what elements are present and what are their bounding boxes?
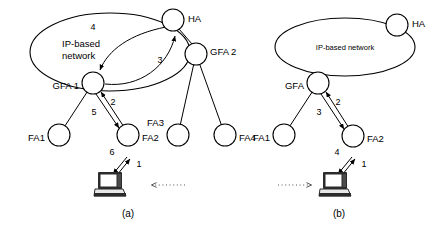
flow-arrow-5-gfa1-to-fa2 — [96, 94, 119, 128]
node-label-gfa-b: GFA — [285, 80, 305, 91]
step-number-1-a: 1 — [136, 159, 141, 169]
node-gfa1[interactable] — [82, 72, 104, 94]
flow-arrow-3-gfa-to-fa2-b — [321, 94, 344, 129]
node-fa3[interactable] — [167, 124, 189, 146]
flow-arrow-3-gfa1-to-ha — [105, 36, 175, 84]
step-number-6-a: 6 — [109, 147, 114, 157]
node-fa1-a[interactable] — [48, 124, 70, 146]
step-number-2-b: 2 — [335, 97, 340, 107]
node-label-gfa1: GFA 1 — [53, 80, 79, 91]
step-number-4-a: 4 — [90, 22, 95, 32]
node-label-fa2-a: FA2 — [142, 132, 159, 143]
panel-caption-b: (b) — [333, 208, 345, 219]
ip-network-label-b: IP-based network — [316, 43, 375, 52]
laptop-icon-a[interactable] — [94, 172, 126, 196]
node-fa2-b[interactable] — [342, 125, 364, 147]
ip-network-label-a-line1: IP-based — [62, 38, 100, 49]
diagram-canvas: IP-based network HA GFA 1 GFA 2 FA1 FA2 … — [0, 0, 448, 227]
node-label-ha-a: HA — [188, 13, 202, 24]
node-label-ha-b: HA — [412, 18, 426, 29]
step-number-3-a: 3 — [157, 55, 162, 65]
node-label-fa1-b: FA1 — [253, 132, 270, 143]
node-ha-a[interactable] — [162, 9, 184, 31]
panel-b: IP-based network HA GFA FA1 FA2 1 2 3 4 — [253, 14, 426, 219]
panel-caption-a: (a) — [122, 208, 134, 219]
node-ha-b[interactable] — [386, 14, 408, 36]
step-number-5-a: 5 — [91, 107, 96, 117]
node-label-fa2-b: FA2 — [367, 133, 384, 144]
node-fa2-a[interactable] — [117, 124, 139, 146]
link-gfa2-fa3 — [178, 54, 196, 135]
network-diagram-figure: IP-based network HA GFA 1 GFA 2 FA1 FA2 … — [0, 0, 448, 227]
node-label-fa3: FA3 — [147, 117, 164, 128]
panel-a: IP-based network HA GFA 1 GFA 2 FA1 FA2 … — [28, 9, 256, 219]
flow-arrow-4-ha-to-gfa1 — [100, 27, 166, 70]
step-number-4-b: 4 — [334, 147, 339, 157]
node-label-fa1-a: FA1 — [28, 132, 45, 143]
step-number-1-b: 1 — [361, 159, 366, 169]
ip-network-label-a-line2: network — [62, 50, 96, 61]
laptop-icon-b[interactable] — [319, 172, 351, 196]
node-gfa2[interactable] — [185, 43, 207, 65]
step-number-3-b: 3 — [316, 107, 321, 117]
node-gfa-b[interactable] — [307, 72, 329, 94]
node-fa4[interactable] — [214, 124, 236, 146]
step-number-2-a: 2 — [110, 97, 115, 107]
link-ha-gfa2 — [179, 29, 192, 44]
node-fa1-b[interactable] — [273, 124, 295, 146]
link-gfa2-fa4 — [196, 54, 225, 135]
node-label-gfa2: GFA 2 — [210, 46, 236, 57]
